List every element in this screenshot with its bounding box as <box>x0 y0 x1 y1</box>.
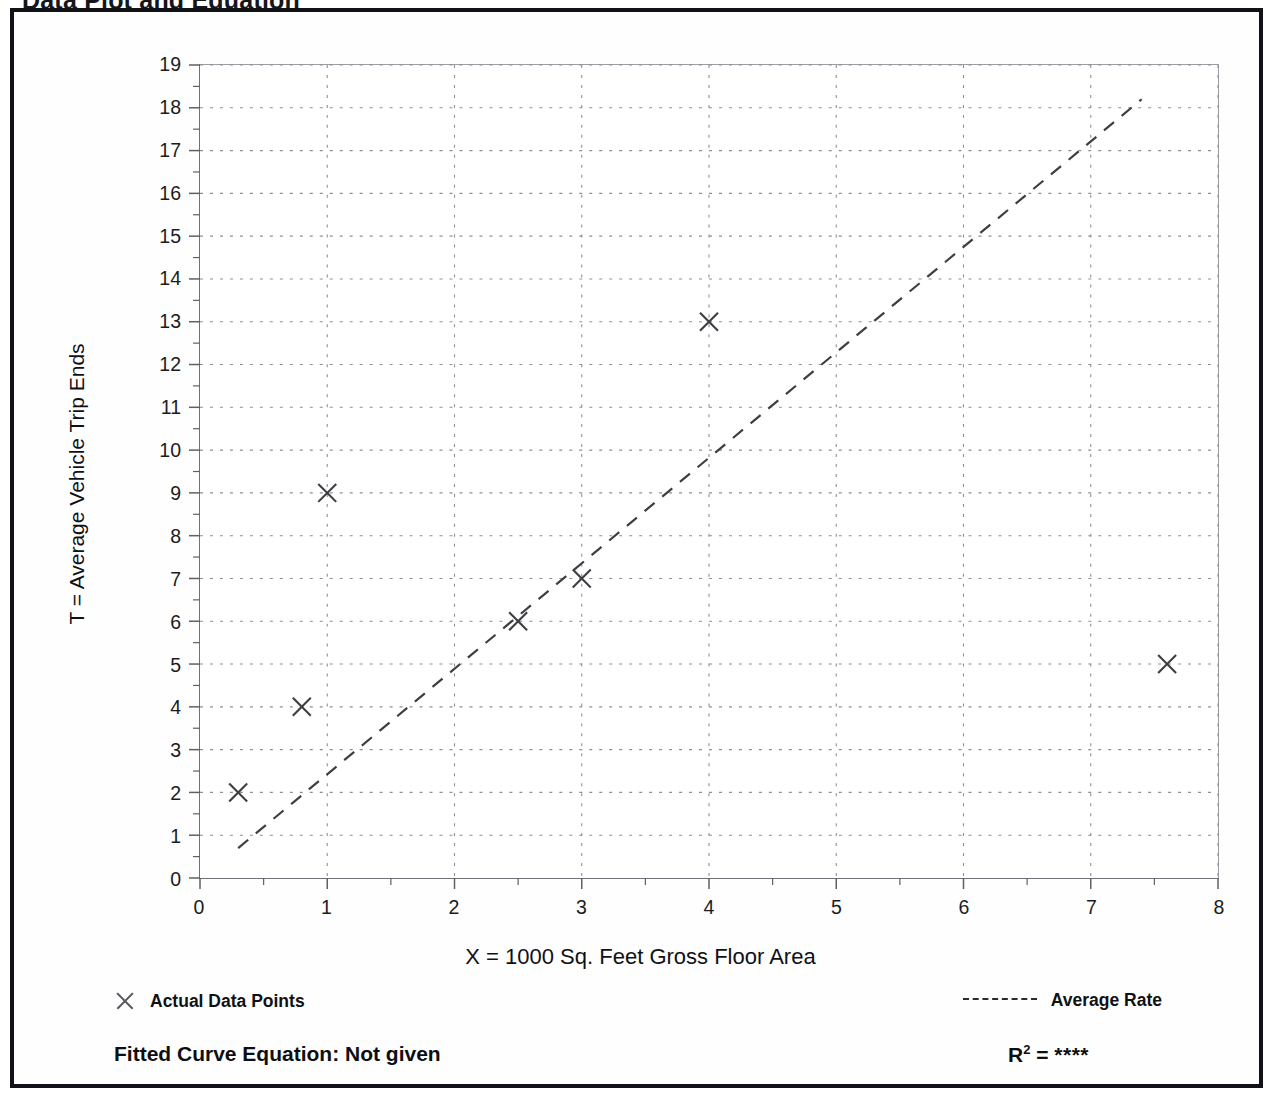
chart-footer: Fitted Curve Equation: Not given R2 = **… <box>14 1042 1267 1082</box>
plot-area <box>199 64 1219 879</box>
data-layer <box>200 65 1218 878</box>
chart-legend: Actual Data Points Average Rate <box>14 990 1267 1024</box>
legend-label-actual-data-points: Actual Data Points <box>150 991 305 1012</box>
x-axis-tick-label: 6 <box>934 896 994 919</box>
data-point-marker <box>573 569 591 587</box>
r-squared-value: R2 = **** <box>1008 1042 1089 1067</box>
y-axis-tick-label: 6 <box>121 610 181 633</box>
y-axis-tick-label: 12 <box>121 353 181 376</box>
x-axis-tick-label: 4 <box>679 896 739 919</box>
y-axis-title: T = Average Vehicle Trip Ends <box>65 104 89 864</box>
data-point-marker <box>293 698 311 716</box>
chart-figure: 012345678910111213141516171819 012345678… <box>14 12 1267 1092</box>
x-axis-tick-label: 1 <box>297 896 357 919</box>
dashed-line-icon <box>963 998 1037 1000</box>
y-axis-tick-label: 1 <box>121 825 181 848</box>
data-point-marker <box>229 783 247 801</box>
x-axis-tick-label: 5 <box>807 896 867 919</box>
y-axis-tick-label: 18 <box>121 95 181 118</box>
page-title: Data Plot and Equation <box>22 0 300 8</box>
y-axis-tick-label: 19 <box>121 53 181 76</box>
x-marker-icon <box>114 990 136 1012</box>
y-axis-tick-label: 13 <box>121 310 181 333</box>
legend-item-actual-data-points: Actual Data Points <box>114 990 305 1012</box>
r-squared-prefix: R <box>1008 1043 1023 1066</box>
legend-label-average-rate: Average Rate <box>1051 990 1162 1011</box>
data-point-marker <box>1158 655 1176 673</box>
y-axis-tick-label: 7 <box>121 567 181 590</box>
y-axis-tick-label: 16 <box>121 181 181 204</box>
y-axis-tick-label: 17 <box>121 138 181 161</box>
y-axis-tick-label: 15 <box>121 224 181 247</box>
x-axis-tick-label: 7 <box>1062 896 1122 919</box>
x-axis-tick-label: 3 <box>552 896 612 919</box>
x-axis-tick-label: 2 <box>424 896 484 919</box>
y-axis-tick-label: 3 <box>121 739 181 762</box>
x-axis-title: X = 1000 Sq. Feet Gross Floor Area <box>14 944 1267 970</box>
y-axis-tick-label: 5 <box>121 653 181 676</box>
x-axis-tick-label: 8 <box>1189 896 1249 919</box>
y-axis-tick-label: 0 <box>121 868 181 891</box>
r-squared-equals: = <box>1030 1043 1054 1066</box>
y-axis-tick-label: 8 <box>121 524 181 547</box>
y-axis-tick-label: 14 <box>121 267 181 290</box>
legend-item-average-rate: Average Rate <box>963 990 1162 1011</box>
y-axis-tick-label: 2 <box>121 782 181 805</box>
r-squared-stars: **** <box>1054 1043 1089 1066</box>
fitted-curve-equation: Fitted Curve Equation: Not given <box>114 1042 441 1066</box>
x-axis-tick-label: 0 <box>169 896 229 919</box>
y-axis-tick-label: 4 <box>121 696 181 719</box>
chart-frame: 012345678910111213141516171819 012345678… <box>10 8 1263 1088</box>
data-point-marker <box>700 313 718 331</box>
data-point-marker <box>318 484 336 502</box>
y-axis-tick-label: 9 <box>121 481 181 504</box>
y-axis-tick-label: 10 <box>121 439 181 462</box>
y-axis-tick-label: 11 <box>121 396 181 419</box>
chart-page: Data Plot and Equation 01234567891011121… <box>0 0 1274 1098</box>
